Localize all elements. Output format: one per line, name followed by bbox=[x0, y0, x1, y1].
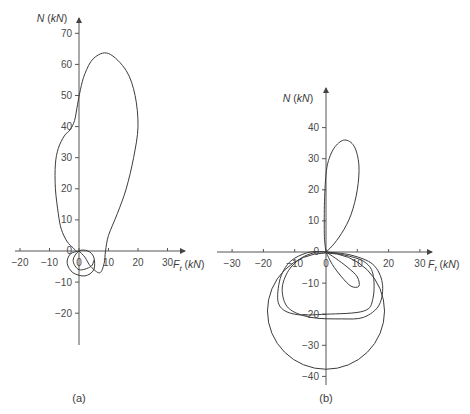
chart-panel-b: −30−20−100102030−40−30−20−10102030400N (… bbox=[217, 88, 459, 404]
x-tick-label: 30 bbox=[162, 257, 174, 268]
x-tick-label: −30 bbox=[224, 258, 241, 269]
y-tick-label: 30 bbox=[308, 153, 320, 164]
figure: −20−100102030−20−10102030405060700N (kN)… bbox=[0, 0, 470, 414]
y-tick-label: 40 bbox=[61, 121, 73, 132]
y-axis-title: N (kN) bbox=[283, 92, 313, 104]
panel-label: (a) bbox=[72, 392, 85, 404]
y-tick-label: 70 bbox=[61, 28, 73, 39]
y-tick-label: 50 bbox=[61, 90, 73, 101]
y-tick-label: −20 bbox=[55, 308, 72, 319]
y-tick-label: −40 bbox=[302, 371, 319, 382]
panel-label: (b) bbox=[319, 392, 332, 404]
x-tick-label: −20 bbox=[255, 258, 272, 269]
y-tick-label: −10 bbox=[302, 278, 319, 289]
y-tick-label: 60 bbox=[61, 59, 73, 70]
x-axis-title: Ft (kN) bbox=[173, 258, 204, 273]
x-tick-label: −20 bbox=[12, 257, 29, 268]
y-tick-label: −10 bbox=[55, 277, 72, 288]
x-tick-label: −10 bbox=[41, 257, 58, 268]
y-axis-title: N (kN) bbox=[37, 12, 67, 24]
y-tick-label: −30 bbox=[302, 340, 319, 351]
chart-panel-a: −20−100102030−20−10102030405060700N (kN)… bbox=[12, 12, 205, 404]
x-tick-label: 20 bbox=[383, 258, 395, 269]
x-tick-label: 30 bbox=[414, 258, 426, 269]
x-tick-label: 0 bbox=[323, 258, 329, 269]
y-tick-label: 10 bbox=[61, 214, 73, 225]
y-tick-label: 20 bbox=[308, 184, 320, 195]
series-upper-lobe bbox=[324, 140, 359, 252]
y-tick-label: 40 bbox=[308, 122, 320, 133]
x-tick-label: 20 bbox=[132, 257, 144, 268]
x-tick-label: 0 bbox=[76, 257, 82, 268]
y-tick-label: 30 bbox=[61, 152, 73, 163]
y-tick-label: 20 bbox=[61, 183, 73, 194]
x-axis-title: Ft (kN) bbox=[428, 258, 459, 273]
y-tick-label: 10 bbox=[308, 215, 320, 226]
